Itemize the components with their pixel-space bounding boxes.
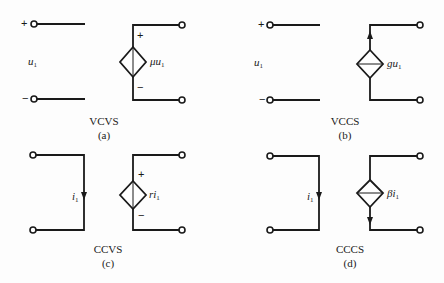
panel-caption: (d) bbox=[344, 258, 357, 269]
gain-sub: 1 bbox=[161, 61, 165, 69]
terminal-icon bbox=[417, 153, 423, 159]
output-plus-sign: + bbox=[138, 169, 144, 180]
control-sub: 1 bbox=[260, 62, 264, 70]
output-minus-sign: − bbox=[137, 82, 143, 93]
panel-caption: (b) bbox=[339, 130, 352, 141]
control-voltage-label: u1 bbox=[254, 57, 263, 70]
terminal-icon bbox=[31, 96, 37, 102]
source-type-name: CCVS bbox=[94, 244, 123, 255]
terminal-icon bbox=[267, 97, 273, 103]
input-plus-sign: + bbox=[21, 18, 27, 29]
terminal-icon bbox=[179, 152, 185, 158]
source-gain-label: μu1 bbox=[150, 56, 165, 69]
vccs-input-port bbox=[267, 22, 320, 103]
output-minus-sign: − bbox=[138, 210, 144, 221]
terminal-icon bbox=[179, 22, 185, 28]
source-type-name: CCCS bbox=[336, 244, 364, 255]
source-type-name: VCVS bbox=[89, 116, 118, 127]
terminal-icon bbox=[417, 22, 423, 28]
vcvs-input-port bbox=[31, 21, 85, 102]
control-sub: 1 bbox=[310, 196, 314, 204]
output-plus-sign: + bbox=[137, 30, 143, 41]
gain-var: μu bbox=[150, 55, 161, 67]
output-wire-top bbox=[370, 156, 417, 180]
terminal-icon bbox=[417, 97, 423, 103]
output-wire-bottom bbox=[370, 78, 417, 100]
terminal-icon bbox=[179, 97, 185, 103]
control-sub: 1 bbox=[34, 61, 38, 69]
source-type-name: VCCS bbox=[331, 116, 360, 127]
source-gain-label: βi1 bbox=[387, 188, 399, 201]
circuit-drawing bbox=[0, 0, 444, 283]
terminal-icon bbox=[30, 227, 36, 233]
input-minus-sign: − bbox=[259, 94, 265, 105]
terminal-icon bbox=[267, 22, 273, 28]
terminal-icon bbox=[267, 153, 273, 159]
terminal-icon bbox=[31, 21, 37, 27]
input-plus-sign: + bbox=[258, 19, 264, 30]
terminal-icon bbox=[417, 227, 423, 233]
source-gain-label: gu1 bbox=[387, 58, 402, 71]
terminal-icon bbox=[179, 227, 185, 233]
gain-sub: 1 bbox=[156, 194, 160, 202]
control-sub: 1 bbox=[75, 196, 79, 204]
current-arrow-down-icon bbox=[316, 192, 322, 200]
terminal-icon bbox=[267, 227, 273, 233]
terminal-icon bbox=[30, 152, 36, 158]
output-wire-top bbox=[370, 25, 417, 50]
controlled-sources-diagram: + − u1 + − μu1 VCVS (a) + − u1 gu1 VCCS … bbox=[0, 0, 444, 283]
current-arrow-down-icon bbox=[81, 192, 87, 200]
control-current-label: i1 bbox=[307, 191, 314, 204]
gain-var: βi bbox=[387, 187, 396, 199]
control-current-label: i1 bbox=[72, 191, 79, 204]
source-gain-label: ri1 bbox=[149, 189, 160, 202]
control-voltage-label: u1 bbox=[28, 56, 37, 69]
input-minus-sign: − bbox=[22, 93, 28, 104]
current-arrow-down-icon bbox=[367, 217, 373, 225]
gain-var: gu bbox=[387, 57, 398, 69]
panel-caption: (a) bbox=[98, 130, 110, 141]
cccs-input-port bbox=[267, 153, 322, 233]
output-wire-bottom bbox=[370, 207, 417, 230]
gain-sub: 1 bbox=[398, 63, 402, 71]
panel-caption: (c) bbox=[102, 258, 114, 269]
ccvs-circuit bbox=[30, 152, 185, 233]
cccs-circuit bbox=[267, 153, 423, 233]
gain-sub: 1 bbox=[396, 193, 400, 201]
current-arrow-up-icon bbox=[367, 31, 373, 39]
